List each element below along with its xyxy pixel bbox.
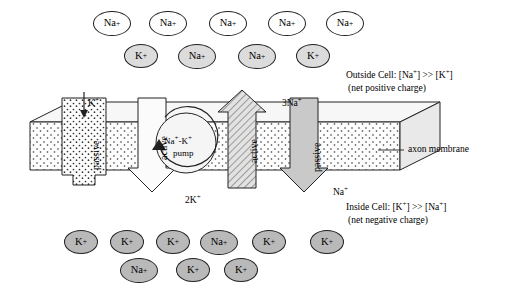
label-passive-right: passive: [311, 143, 322, 172]
k-out-1: K+: [124, 44, 158, 68]
k-in-5: K+: [310, 230, 344, 254]
inside-cell-caption-2: (net negative charge): [348, 215, 428, 227]
k-in-4: K+: [252, 230, 286, 254]
k-in-7: K+: [224, 258, 258, 282]
na-in-2: Na+: [120, 258, 158, 283]
na-out-1: Na+: [93, 11, 131, 36]
na-out-6: Na+: [178, 44, 216, 69]
k-in-3: K+: [156, 230, 190, 254]
outside-cell-caption-2: (net positive charge): [348, 83, 426, 95]
na-out-7: Na+: [238, 44, 276, 69]
pump-label-line2: pump: [173, 148, 194, 159]
k-in-2: K+: [110, 230, 144, 254]
k-in-6: K+: [176, 258, 210, 282]
na-out-3: Na+: [209, 11, 247, 36]
label-k-in-left: K+: [88, 96, 99, 110]
pump-label-line1: Na+-K+: [164, 134, 192, 147]
k-out-2: K+: [296, 44, 330, 68]
outside-cell-caption: Outside Cell: [Na+] >> [K+]: [346, 68, 453, 82]
inside-cell-caption: Inside Cell: [K+] >> [Na+]: [346, 200, 446, 214]
label-2k-in: 2K+: [185, 193, 201, 207]
label-active-right: active: [248, 139, 259, 163]
na-out-2: Na+: [149, 11, 187, 36]
na-in-1: Na+: [200, 230, 238, 255]
label-na-in-right: Na+: [333, 185, 348, 199]
label-passive-left: passive: [90, 141, 101, 170]
axon-membrane-label: axon membrane: [408, 144, 469, 156]
k-in-1: K+: [64, 230, 98, 254]
label-3na-out: 3Na+: [282, 96, 302, 110]
na-out-5: Na+: [326, 11, 364, 36]
na-out-4: Na+: [268, 11, 306, 36]
